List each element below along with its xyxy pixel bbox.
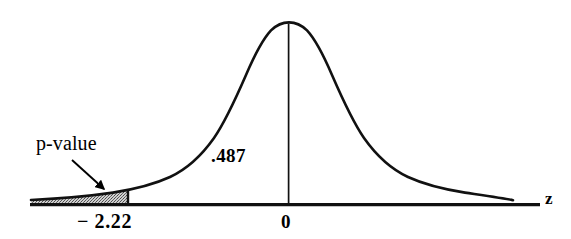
p-value-label: p-value <box>36 133 97 153</box>
distribution-plot-svg <box>0 0 571 239</box>
area-probability-label: .487 <box>211 146 246 165</box>
normal-distribution-figure: p-value .487 − 2.22 0 z <box>0 0 571 239</box>
normal-curve <box>31 22 513 200</box>
p-value-pointer-arrow <box>72 160 104 189</box>
zero-tick-label: 0 <box>281 212 291 231</box>
z-axis-label: z <box>545 190 553 207</box>
critical-value-tick-label: − 2.22 <box>77 211 132 231</box>
